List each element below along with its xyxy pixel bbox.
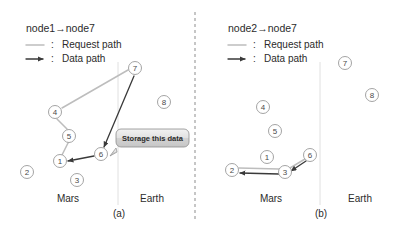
- node-2-b-label: 2: [230, 166, 235, 175]
- panel-b-legend: : Request path : Data path: [228, 39, 324, 64]
- node-8-b[interactable]: 8: [366, 89, 379, 102]
- node-1-b-label: 1: [265, 153, 270, 162]
- request-edge-1-5: [62, 143, 68, 155]
- node-7-b-label: 7: [343, 59, 348, 68]
- legend-label-request-a: Request path: [62, 39, 122, 50]
- legend-colon-a-1: :: [51, 53, 54, 64]
- panel-a-legend: : Request path : Data path: [26, 39, 122, 64]
- legend-colon-b-0: :: [253, 39, 256, 50]
- node-3-b[interactable]: 3: [279, 166, 292, 179]
- legend-label-request-b: Request path: [264, 39, 324, 50]
- legend-label-data-b: Data path: [264, 53, 307, 64]
- panel-a-nodes: 7 8 4 5 6: [21, 62, 171, 187]
- region-label-mars-b: Mars: [260, 193, 282, 204]
- node-2-b[interactable]: 2: [226, 164, 239, 177]
- panel-a-title: node1→node7: [26, 22, 95, 34]
- storage-callout-a[interactable]: Storage this data: [116, 129, 189, 147]
- node-6-a[interactable]: 6: [95, 148, 108, 161]
- request-edge-2-3: [239, 168, 279, 169]
- node-3-b-label: 3: [283, 168, 288, 177]
- panel-b-data-path: [240, 161, 306, 174]
- node-4-b-label: 4: [261, 103, 266, 112]
- panel-a: node1→node7 : Request path : Data path: [21, 22, 190, 219]
- node-1-a-label: 1: [58, 157, 63, 166]
- node-7-a[interactable]: 7: [129, 62, 142, 75]
- node-8-a-label: 8: [162, 98, 167, 107]
- storage-callout-text: Storage this data: [122, 134, 184, 143]
- region-label-earth-b: Earth: [348, 193, 372, 204]
- node-4-b[interactable]: 4: [257, 101, 270, 114]
- node-3-a-label: 3: [75, 176, 80, 185]
- panel-b: node2→node7 : Request path : Data path: [226, 22, 379, 219]
- node-6-b[interactable]: 6: [304, 149, 317, 162]
- request-edge-5-4: [57, 119, 67, 129]
- node-7-a-label: 7: [133, 64, 138, 73]
- legend-colon-a-0: :: [51, 39, 54, 50]
- node-5-a[interactable]: 5: [63, 130, 76, 143]
- region-label-mars-a: Mars: [57, 193, 79, 204]
- panel-b-caption: (b): [315, 208, 327, 219]
- node-5-a-label: 5: [67, 132, 72, 141]
- node-6-a-label: 6: [99, 150, 104, 159]
- node-2-a[interactable]: 2: [21, 166, 34, 179]
- panel-b-title: node2→node7: [228, 22, 297, 34]
- callout-tail-a: [110, 148, 117, 156]
- node-6-b-label: 6: [308, 151, 313, 160]
- node-1-a[interactable]: 1: [54, 155, 67, 168]
- node-3-a[interactable]: 3: [71, 174, 84, 187]
- node-2-a-label: 2: [25, 168, 30, 177]
- node-5-b[interactable]: 5: [269, 125, 282, 138]
- data-edge-6-1: [68, 156, 94, 161]
- data-edge-3-2: [240, 173, 279, 174]
- node-4-a[interactable]: 4: [49, 106, 62, 119]
- network-routing-figure: node1→node7 : Request path : Data path: [0, 0, 399, 231]
- node-1-b[interactable]: 1: [261, 151, 274, 164]
- node-8-b-label: 8: [370, 91, 375, 100]
- legend-colon-b-1: :: [253, 53, 256, 64]
- legend-label-data-a: Data path: [62, 53, 105, 64]
- node-8-a[interactable]: 8: [158, 96, 171, 109]
- node-4-a-label: 4: [53, 108, 58, 117]
- panel-a-caption: (a): [113, 208, 125, 219]
- node-7-b[interactable]: 7: [339, 57, 352, 70]
- node-5-b-label: 5: [273, 127, 278, 136]
- region-label-earth-a: Earth: [140, 193, 164, 204]
